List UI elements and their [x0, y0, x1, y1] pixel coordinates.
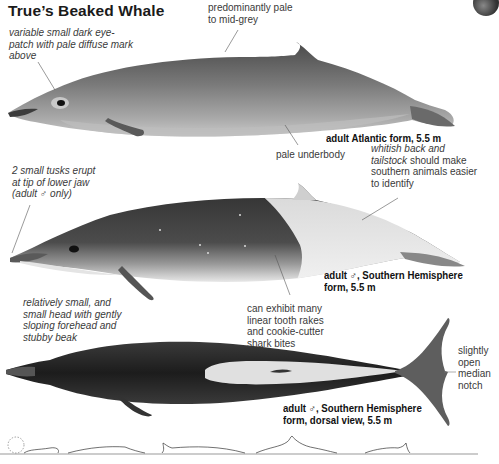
- annotation-median-notch: slightly open median notch: [458, 345, 488, 391]
- surfacing-sequence: [0, 436, 478, 454]
- caption-southern-line2: form, 5.5 m: [324, 281, 463, 293]
- annotation-head: relatively small, and small head with ge…: [23, 297, 123, 343]
- annotation-eye-patch: variable small dark eye-patch with pale …: [9, 27, 139, 62]
- annotation-underbody: pale underbody: [276, 149, 345, 161]
- caption-southern-form: adult ♂, Southern Hemisphere form, 5.5 m: [324, 269, 463, 293]
- caption-southern-line1: adult ♂, Southern Hemisphere: [324, 269, 463, 281]
- caption-dorsal-view: adult ♂, Southern Hemisphere form, dorsa…: [283, 402, 422, 426]
- caption-dorsal-line1: adult ♂, Southern Hemisphere: [283, 402, 422, 414]
- caption-dorsal-line2: form, dorsal view, 5.5 m: [283, 414, 422, 426]
- caption-atlantic-form: adult Atlantic form, 5.5 m: [326, 132, 441, 144]
- annotation-whitish-back: whitish back and tailstock should make s…: [371, 143, 483, 189]
- annotation-tusks: 2 small tusks erupt at tip of lower jaw …: [12, 165, 102, 200]
- annotation-colour: predominantly pale to mid-grey: [208, 2, 298, 25]
- annotation-scars: can exhibit many linear tooth rakes and …: [247, 303, 342, 349]
